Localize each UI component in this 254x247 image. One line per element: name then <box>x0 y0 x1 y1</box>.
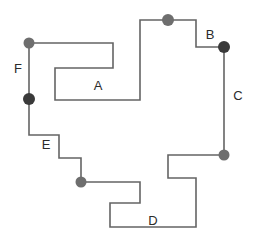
segment-label-a: A <box>94 78 103 93</box>
segment-label-e: E <box>42 137 51 152</box>
polygon-boundary-path <box>29 20 224 227</box>
segment-label-d: D <box>148 213 157 228</box>
vertex-left-lower <box>23 93 35 105</box>
segment-label-c: C <box>233 88 242 103</box>
vertex-top-middle <box>162 14 174 26</box>
polygon-diagram: ABCDEF <box>0 0 254 247</box>
segment-label-group: ABCDEF <box>14 27 243 228</box>
diagram-canvas: ABCDEF <box>0 0 254 247</box>
vertex-top-left <box>24 38 35 49</box>
segment-label-f: F <box>14 61 22 76</box>
vertex-bottom-left <box>76 177 87 188</box>
segment-label-b: B <box>206 27 215 42</box>
vertex-right-upper <box>218 41 230 53</box>
vertex-right-lower <box>219 150 230 161</box>
